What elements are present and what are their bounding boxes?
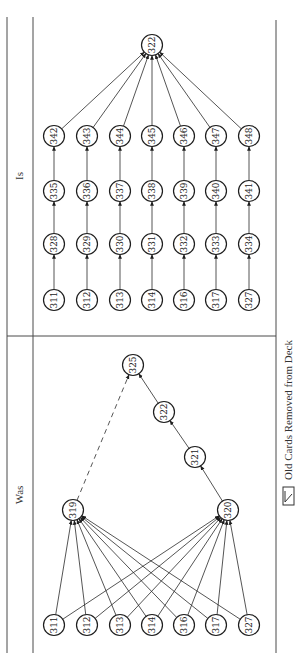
- node-label: 341: [244, 182, 254, 199]
- card-node-332: 332: [174, 234, 195, 255]
- card-node-333: 333: [206, 234, 227, 255]
- node-label: 347: [211, 127, 221, 144]
- node-label: 346: [179, 127, 189, 144]
- card-node-329: 329: [77, 234, 98, 255]
- node-label: 313: [115, 291, 125, 308]
- card-node-313: 313: [110, 290, 131, 311]
- arrow: [170, 421, 189, 449]
- node-label: 314: [147, 291, 157, 308]
- card-node-334: 334: [239, 234, 260, 255]
- card-node-335: 335: [44, 181, 65, 202]
- node-label: 327: [244, 616, 254, 633]
- node-label: 314: [147, 616, 157, 633]
- card-node-313: 313: [110, 615, 131, 636]
- card-node-322: 322: [154, 402, 175, 423]
- diagram-frame: [7, 17, 276, 653]
- card-node-312: 312: [77, 290, 98, 311]
- card-node-321: 321: [185, 447, 206, 468]
- arrow: [74, 520, 85, 614]
- panel-title-is: Is: [13, 172, 25, 180]
- node-label: 316: [179, 291, 189, 308]
- arrow: [160, 52, 242, 129]
- legend: Old Cards Removed from Deck: [282, 340, 294, 505]
- node-label: 335: [49, 182, 59, 199]
- card-node-320: 320: [218, 500, 239, 521]
- node-label: 319: [68, 501, 78, 518]
- node-label: 344: [115, 127, 125, 144]
- card-node-338: 338: [142, 181, 163, 202]
- card-node-311: 311: [44, 290, 65, 311]
- card-node-344: 344: [110, 126, 131, 147]
- card-node-327: 327: [239, 290, 260, 311]
- card-node-316: 316: [174, 615, 195, 636]
- card-node-337: 337: [110, 181, 131, 202]
- arrow: [201, 466, 223, 501]
- node-label: 313: [115, 616, 125, 633]
- node-label: 320: [223, 501, 233, 518]
- node-label: 333: [211, 235, 221, 252]
- arrow: [95, 517, 220, 619]
- node-label: 337: [115, 182, 125, 199]
- node-label: 322: [147, 36, 157, 53]
- card-node-330: 330: [110, 234, 131, 255]
- node-label: 317: [211, 616, 221, 633]
- arrow: [123, 55, 148, 126]
- node-label: 330: [115, 235, 125, 252]
- arrow: [158, 54, 210, 128]
- node-label: 325: [128, 356, 138, 373]
- panel-title-was: Was: [13, 486, 25, 505]
- card-node-341: 341: [239, 181, 260, 202]
- node-label: 327: [244, 291, 254, 308]
- card-node-343: 343: [77, 126, 98, 147]
- card-node-347: 347: [206, 126, 227, 147]
- card-node-325: 325: [123, 355, 144, 376]
- node-label: 332: [179, 235, 189, 252]
- card-node-345: 345: [142, 126, 163, 147]
- arrow: [81, 517, 208, 619]
- arrow: [62, 52, 145, 129]
- card-node-327: 327: [239, 615, 260, 636]
- dashed-arrow: [77, 375, 129, 501]
- arrow: [139, 374, 158, 403]
- node-label: 345: [147, 127, 157, 144]
- card-node-317: 317: [206, 290, 227, 311]
- node-label: 336: [82, 182, 92, 199]
- node-label: 334: [244, 235, 254, 252]
- arrow: [63, 516, 219, 619]
- arrow: [93, 54, 146, 128]
- card-node-312: 312: [77, 615, 98, 636]
- node-label: 339: [179, 182, 189, 199]
- arrow: [56, 520, 72, 614]
- legend-label: Old Cards Removed from Deck: [282, 340, 294, 480]
- node-label: 329: [82, 235, 92, 252]
- arrow: [155, 55, 180, 126]
- node-label: 343: [82, 127, 92, 144]
- node-label: 317: [211, 291, 221, 308]
- node-label: 311: [49, 291, 59, 308]
- card-node-348: 348: [239, 126, 260, 147]
- card-node-336: 336: [77, 181, 98, 202]
- card-node-339: 339: [174, 181, 195, 202]
- card-node-331: 331: [142, 234, 163, 255]
- card-node-316: 316: [174, 290, 195, 311]
- node-label: 312: [82, 291, 92, 308]
- card-node-346: 346: [174, 126, 195, 147]
- card-node-314: 314: [142, 615, 163, 636]
- nodes-layer: 3113123133143163173273283293303313323333…: [44, 35, 260, 636]
- card-node-311: 311: [44, 615, 65, 636]
- node-label: 338: [147, 182, 157, 199]
- card-node-340: 340: [206, 181, 227, 202]
- is-was-card-flow-diagram: Is Was 311312313314316317327328329330331…: [0, 0, 297, 659]
- arrow: [82, 516, 240, 620]
- card-node-342: 342: [44, 126, 65, 147]
- node-label: 348: [244, 127, 254, 144]
- node-label: 342: [49, 127, 59, 144]
- node-label: 311: [49, 616, 59, 633]
- arrow: [230, 520, 247, 614]
- node-label: 340: [211, 182, 221, 199]
- card-node-328: 328: [44, 234, 65, 255]
- card-node-319: 319: [63, 500, 84, 521]
- node-label: 322: [159, 403, 169, 420]
- node-label: 312: [82, 616, 92, 633]
- card-node-322: 322: [142, 35, 163, 56]
